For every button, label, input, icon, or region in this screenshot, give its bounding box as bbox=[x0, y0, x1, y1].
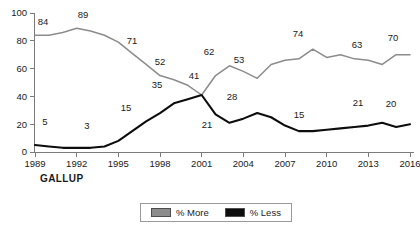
data-point-label: 15 bbox=[294, 109, 305, 120]
x-tick-label: 2001 bbox=[191, 158, 212, 169]
data-point-label: 63 bbox=[352, 39, 363, 50]
data-point-label: 3 bbox=[84, 120, 89, 131]
data-point-label: 52 bbox=[155, 56, 166, 67]
y-tick-label: 80 bbox=[16, 35, 27, 46]
legend-item-less[interactable]: % Less bbox=[225, 207, 281, 218]
x-tick-label: 1992 bbox=[66, 158, 87, 169]
chart-plot-area: 020406080100 198919921995199820012004200… bbox=[0, 0, 420, 230]
x-axis-ticks: 1989199219951998200120042007201020132016 bbox=[24, 153, 420, 170]
data-point-label: 41 bbox=[189, 70, 200, 81]
data-point-label: 70 bbox=[388, 32, 399, 43]
chart-legend: % More % Less bbox=[140, 203, 292, 222]
x-tick-label: 2007 bbox=[274, 158, 295, 169]
gallup-line-chart: 020406080100 198919921995199820012004200… bbox=[0, 0, 420, 230]
x-tick-label: 1995 bbox=[108, 158, 129, 169]
x-tick-label: 2013 bbox=[358, 158, 379, 169]
chart-axes bbox=[35, 13, 415, 153]
chart-data-labels: 848971524162537463705315352128152120 bbox=[38, 9, 399, 131]
data-point-label: 62 bbox=[204, 46, 215, 57]
data-point-label: 20 bbox=[386, 98, 397, 109]
x-tick-label: 1998 bbox=[149, 158, 170, 169]
legend-swatch-more bbox=[151, 208, 171, 217]
legend-item-more[interactable]: % More bbox=[151, 207, 209, 218]
data-point-label: 89 bbox=[78, 9, 89, 20]
legend-label-less: % Less bbox=[250, 207, 281, 218]
data-point-label: 28 bbox=[227, 91, 238, 102]
x-tick-label: 2004 bbox=[233, 158, 254, 169]
y-tick-label: 100 bbox=[11, 7, 27, 18]
data-point-label: 5 bbox=[42, 116, 47, 127]
data-point-label: 71 bbox=[127, 35, 138, 46]
data-point-label: 53 bbox=[234, 54, 245, 65]
legend-label-more: % More bbox=[176, 207, 209, 218]
x-tick-label: 2010 bbox=[316, 158, 337, 169]
y-tick-label: 0 bbox=[22, 146, 27, 157]
legend-swatch-less bbox=[225, 208, 245, 217]
y-tick-label: 60 bbox=[16, 63, 27, 74]
y-axis-ticks: 020406080100 bbox=[11, 7, 34, 157]
x-tick-label: 1989 bbox=[24, 158, 45, 169]
data-point-label: 84 bbox=[38, 16, 49, 27]
data-point-label: 21 bbox=[202, 119, 213, 130]
gallup-brand-logo: GALLUP bbox=[40, 173, 84, 184]
y-tick-label: 40 bbox=[16, 91, 27, 102]
y-tick-label: 20 bbox=[16, 119, 27, 130]
data-point-label: 21 bbox=[353, 97, 364, 108]
x-tick-label: 2016 bbox=[399, 158, 420, 169]
data-point-label: 74 bbox=[293, 28, 304, 39]
data-point-label: 15 bbox=[121, 102, 132, 113]
data-point-label: 35 bbox=[152, 79, 163, 90]
